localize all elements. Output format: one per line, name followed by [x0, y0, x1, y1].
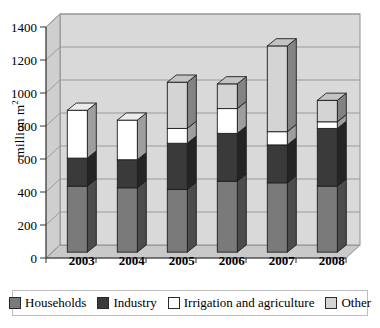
bar-segment	[217, 109, 237, 134]
legend-item[interactable]: Irrigation and agriculture	[168, 295, 315, 311]
bar-segment	[217, 133, 237, 181]
bar-segment-side	[287, 176, 296, 253]
legend-label: Other	[341, 295, 371, 311]
bar-segment-side	[187, 75, 196, 128]
y-axis-tick-label: 1000	[11, 86, 37, 101]
bar-segment	[167, 189, 187, 252]
bar-segment	[317, 186, 337, 252]
y-axis-tick-label: 0	[31, 251, 38, 266]
bar-segment	[317, 128, 337, 186]
bar-segment	[217, 84, 237, 109]
bar-segment	[67, 158, 87, 186]
bar-segment-side	[137, 113, 146, 160]
bar-segment	[117, 160, 137, 188]
legend-item[interactable]: Households	[9, 295, 86, 311]
bar-segment	[267, 132, 287, 145]
bar-segment-side	[137, 181, 146, 253]
bar-segment	[317, 122, 337, 129]
bar-segment-side	[287, 138, 296, 183]
x-axis-tick-label: 2005	[160, 254, 204, 267]
legend-label: Households	[25, 295, 86, 311]
x-axis-tick-label: 2008	[310, 254, 354, 267]
x-axis-tick-label: 2003	[60, 254, 104, 267]
bar-segment	[267, 145, 287, 183]
legend-swatch-icon	[97, 297, 109, 309]
legend-item[interactable]: Other	[325, 295, 371, 311]
bar-segment	[267, 183, 287, 252]
chart-side-wall	[46, 14, 60, 258]
chart-legend: HouseholdsIndustryIrrigation and agricul…	[12, 290, 368, 316]
bar-segment	[167, 128, 187, 143]
bar-segment	[67, 186, 87, 252]
y-axis-tick-label: 600	[18, 152, 38, 167]
bar-segment	[167, 82, 187, 128]
bar-segment-side	[187, 136, 196, 189]
legend-label: Industry	[113, 295, 156, 311]
legend-swatch-icon	[325, 297, 337, 309]
plot-area: 0200400600800100012001400 20032004200520…	[0, 0, 380, 280]
bar-segment-side	[237, 126, 246, 181]
bar-segment-side	[337, 121, 346, 186]
bar-segment	[317, 100, 337, 121]
bar-segment	[117, 188, 137, 252]
chart-figure: million m2 0200400600800100012001400 200…	[0, 0, 380, 328]
bar-segment	[67, 110, 87, 158]
bar-segment	[217, 181, 237, 252]
y-axis-tick-label: 800	[18, 119, 38, 134]
y-axis-tick-label: 1400	[11, 20, 37, 35]
legend-swatch-icon	[168, 297, 180, 309]
y-axis-tick-label: 1200	[11, 53, 37, 68]
x-axis-tick-label: 2004	[110, 254, 154, 267]
chart-canvas: 0200400600800100012001400	[0, 0, 380, 280]
bar-segment-side	[87, 103, 96, 158]
legend-swatch-icon	[9, 297, 21, 309]
bar-segment	[167, 143, 187, 189]
y-axis-tick-label: 200	[18, 218, 38, 233]
y-axis-tick-label: 400	[18, 185, 38, 200]
bar-segment-side	[87, 179, 96, 252]
legend-item[interactable]: Industry	[97, 295, 156, 311]
bar-segment	[117, 120, 137, 160]
chart-back-wall	[60, 14, 360, 245]
x-axis-tick-label: 2007	[260, 254, 304, 267]
legend-label: Irrigation and agriculture	[184, 295, 315, 311]
bar-segment-side	[237, 174, 246, 252]
bar-segment-side	[187, 182, 196, 252]
bar-segment-side	[337, 179, 346, 252]
bar-segment	[267, 46, 287, 132]
x-axis-tick-label: 2006	[210, 254, 254, 267]
bar-segment-side	[287, 39, 296, 132]
